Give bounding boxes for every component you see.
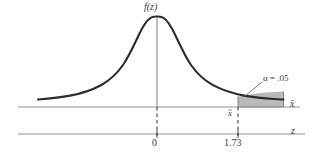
xbar-axis-label: x̄ [290,99,294,109]
origin-tick-label: 0 [152,138,157,148]
density-function-label: f(z) [144,2,157,12]
z-axis-label: z [291,126,295,136]
critical-value-tick-label: 1.73 [224,138,242,148]
alpha-level-label: α = .05 [263,74,289,83]
normal-distribution-figure: f(z) α = .05 x̂ x̄ z 0 1.73 [0,0,320,159]
test-statistic-label: x̂ [228,109,232,118]
normal-density-curve [38,17,284,100]
